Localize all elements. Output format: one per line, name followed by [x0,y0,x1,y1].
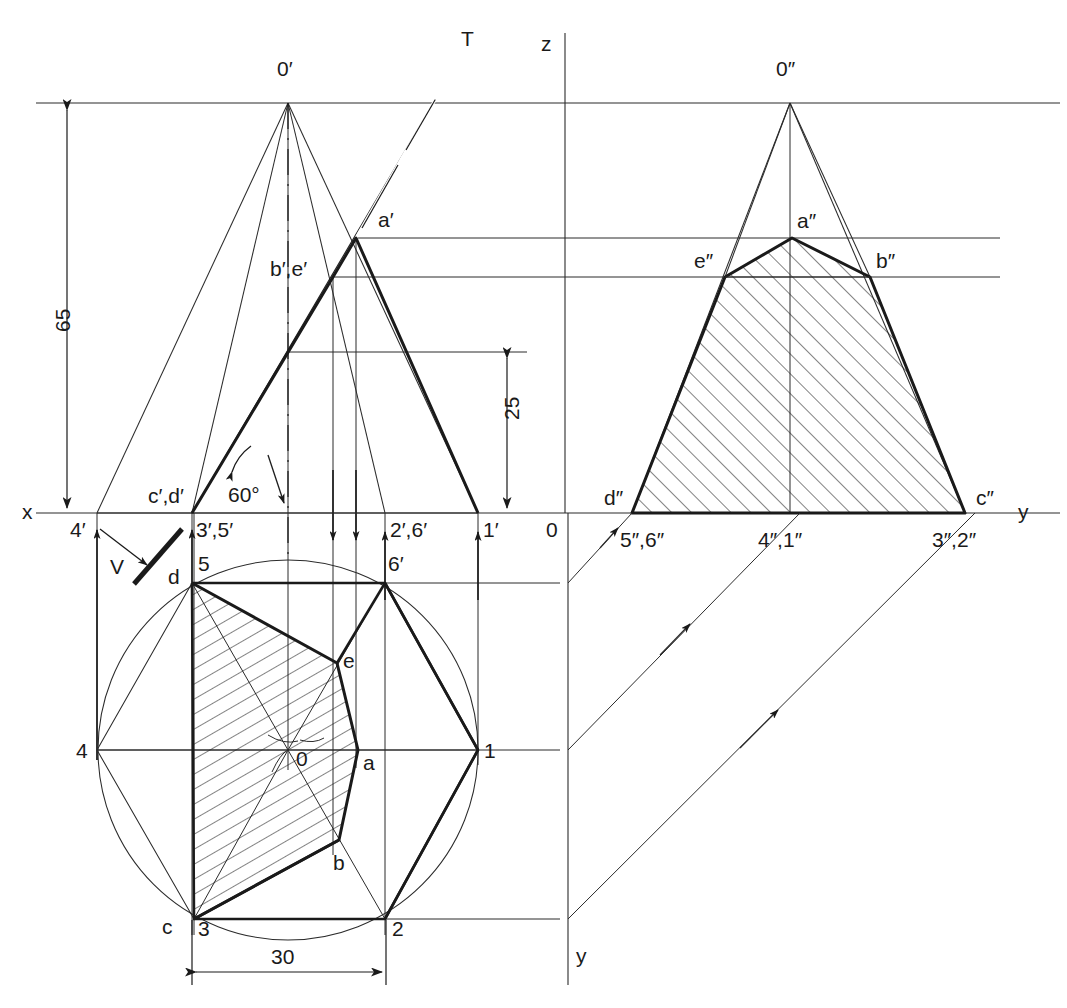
side-section-hatch [632,238,965,513]
dimension-label-60deg: 60° [228,484,260,505]
label-axis-y-bottom: y [576,945,587,966]
label-2-top: 2 [392,918,404,939]
label-cd-front: c′,d′ [148,485,184,506]
transfer-45-top-arrow [600,528,618,548]
angle-leader-60 [268,455,284,503]
trace-dash-b [406,100,435,150]
label-origin: 0 [546,519,558,540]
label-3-top: 3 [198,918,210,939]
label-6-top: 6′ [388,553,404,574]
label-center-top: 0 [296,748,308,769]
label-c-top: c [162,916,173,937]
label-axis-x: x [22,501,33,522]
label-trace-V: V [110,556,124,577]
label-apex-front: 0′ [277,58,293,79]
dimension-label-25: 25 [501,397,522,420]
label-1-top: 1 [484,740,496,761]
technical-drawing-canvas: 0′ T z 0″ a′ a″ b′,e′ e″ b″ 65 25 c′,d′ … [0,0,1067,1008]
label-41-side: 4″,1″ [758,529,802,550]
label-32-side: 3″,2″ [932,529,976,550]
label-be-front: b′,e′ [270,258,307,279]
label-e-side: e″ [694,250,713,271]
transfer-lines-45 [568,513,975,919]
label-b-side: b″ [876,250,895,271]
label-axis-y-right: y [1018,501,1029,522]
transfer-45-bot-arrow [740,710,778,748]
transfer-45-mid-arrow [660,624,690,655]
label-4-top: 4 [76,740,88,761]
label-c-side: c″ [976,487,994,508]
label-trace-T: T [461,28,474,49]
label-axis-z: z [541,33,552,54]
label-a-side: a″ [797,210,816,231]
side-view [632,103,965,513]
label-35-prime: 3′,5′ [196,519,233,540]
label-apex-side: 0″ [776,58,795,79]
label-e-top: e [343,650,355,671]
dimension-label-65: 65 [52,309,73,332]
label-56-side: 5″,6″ [620,529,664,550]
label-d-top: d [168,566,180,587]
label-a-top: a [363,752,375,773]
angle-arc-60 [232,446,251,472]
label-26-prime: 2′,6′ [390,519,427,540]
label-b-top: b [333,852,345,873]
label-4-prime: 4′ [70,519,86,540]
dimension-label-30: 30 [271,946,294,967]
label-1-prime: 1′ [483,519,499,540]
label-5-top: 5 [198,553,210,574]
front-section-outline [192,238,478,513]
label-a-front: a′ [378,209,394,230]
label-d-side: d″ [604,487,623,508]
